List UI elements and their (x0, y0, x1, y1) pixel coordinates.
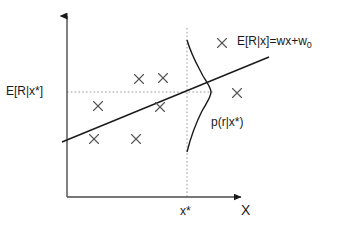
regression-line (62, 57, 269, 142)
regression-expectation-diagram: E[R|x*] E[R|x]=wx+w0 p(r|x*) x* X (0, 0, 338, 230)
expected-r-given-xstar-label: E[R|x*] (6, 85, 43, 97)
scatter-marker (135, 75, 144, 84)
regression-equation-text: E[R|x]=wx+w (237, 34, 307, 48)
x-star-tick-label: x* (180, 205, 191, 217)
regression-equation-subscript: 0 (307, 40, 312, 50)
x-axis-label: X (241, 203, 250, 217)
scatter-marker (156, 103, 165, 112)
regression-equation-label: E[R|x]=wx+w0 (237, 35, 312, 50)
scatter-marker (94, 102, 103, 111)
scatter-marker (218, 39, 227, 48)
conditional-density-label: p(r|x*) (211, 116, 243, 128)
scatter-marker (132, 135, 141, 144)
gaussian-density-curve (187, 40, 211, 152)
scatter-marker (233, 89, 242, 98)
scatter-marker (159, 74, 168, 83)
scatter-marker (90, 135, 99, 144)
